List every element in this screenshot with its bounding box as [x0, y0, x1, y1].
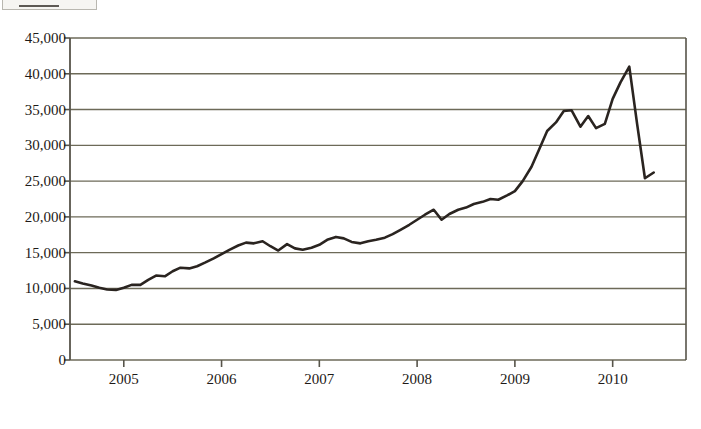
x-axis-tick-labels: 200520062007200820092010: [0, 12, 701, 429]
line-chart: 05,00010,00015,00020,00025,00030,00035,0…: [0, 12, 701, 429]
x-axis-tick-label: 2006: [182, 372, 262, 387]
scan-header-strip: [0, 0, 701, 12]
x-axis-tick-label: 2007: [279, 372, 359, 387]
x-axis-tick-label: 2008: [377, 372, 457, 387]
x-axis-tick-label: 2005: [84, 372, 164, 387]
x-axis-tick-label: 2009: [475, 372, 555, 387]
header-label-box: [2, 0, 97, 10]
header-label-mark: [19, 0, 59, 7]
x-axis-tick-label: 2010: [573, 372, 653, 387]
